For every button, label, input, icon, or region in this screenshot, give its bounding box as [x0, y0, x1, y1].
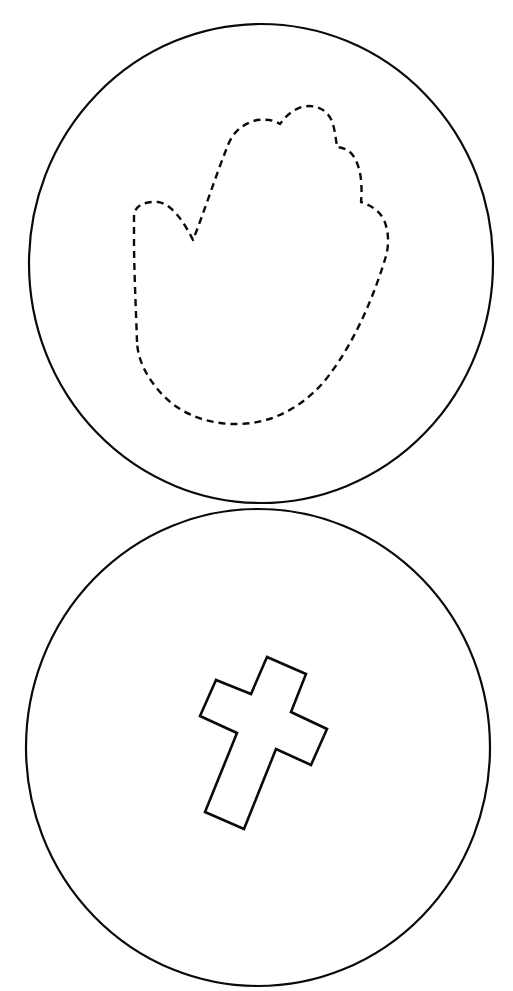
bottom-circle-group [26, 509, 490, 986]
cross-icon [200, 657, 327, 829]
top-circle [29, 24, 493, 503]
line-art-canvas [0, 0, 513, 991]
top-circle-group [29, 24, 493, 503]
hand-outline-icon [134, 106, 388, 424]
template-page: Top circle with dashed hand outline Bott… [0, 0, 513, 991]
